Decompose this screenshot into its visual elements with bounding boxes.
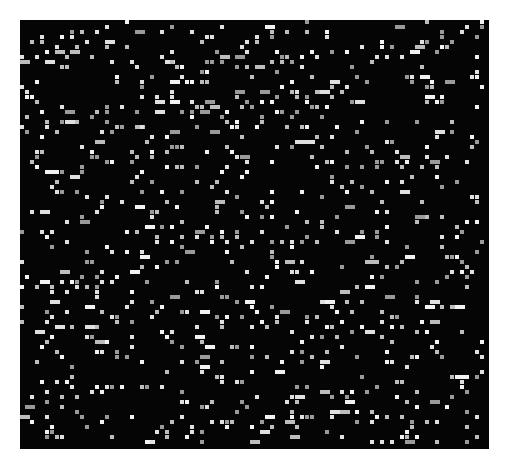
- noise-dot: [250, 285, 254, 289]
- noise-dot: [305, 125, 309, 129]
- noise-dot: [400, 55, 404, 59]
- noise-dot: [115, 275, 119, 279]
- noise-dot: [150, 315, 154, 319]
- noise-dot: [235, 120, 239, 124]
- noise-dot: [410, 420, 414, 424]
- noise-dot: [470, 135, 474, 139]
- noise-dot: [205, 60, 209, 64]
- noise-dot: [215, 205, 219, 209]
- noise-dot: [340, 265, 344, 269]
- noise-dot: [35, 155, 39, 159]
- noise-dot: [370, 150, 374, 154]
- noise-dot: [465, 265, 469, 269]
- noise-dot: [295, 210, 299, 214]
- noise-dot: [240, 135, 244, 139]
- noise-dot: [445, 405, 449, 409]
- noise-dot: [140, 265, 144, 269]
- noise-dot: [470, 75, 474, 79]
- noise-dot: [215, 280, 219, 284]
- noise-dot: [95, 155, 99, 159]
- noise-dot: [245, 170, 249, 174]
- noise-dot: [150, 440, 154, 444]
- noise-dot: [20, 305, 24, 309]
- noise-dot: [480, 85, 484, 89]
- noise-dot: [80, 30, 84, 34]
- noise-dot: [305, 385, 309, 389]
- noise-dot: [270, 100, 274, 104]
- noise-dot: [470, 270, 474, 274]
- noise-dot: [45, 50, 49, 54]
- noise-dot: [160, 30, 164, 34]
- noise-dot: [160, 225, 164, 229]
- noise-dot: [410, 50, 420, 54]
- noise-dot: [250, 370, 254, 374]
- noise-dot: [125, 355, 129, 359]
- noise-dot: [165, 135, 169, 139]
- noise-dot: [200, 70, 204, 74]
- noise-dot: [60, 65, 64, 69]
- noise-dot: [170, 90, 174, 94]
- noise-dot: [195, 360, 199, 364]
- noise-dot: [305, 315, 309, 319]
- noise-dot: [300, 260, 304, 264]
- noise-dot: [75, 120, 79, 124]
- noise-dot: [90, 115, 94, 119]
- noise-dot: [20, 320, 24, 324]
- noise-dot: [330, 85, 334, 89]
- noise-dot: [130, 270, 140, 274]
- noise-dot: [345, 205, 355, 209]
- noise-dot: [380, 335, 384, 339]
- noise-dot: [190, 80, 194, 84]
- noise-dot: [435, 350, 439, 354]
- noise-dot: [385, 240, 389, 244]
- noise-dot: [245, 40, 249, 44]
- noise-dot: [150, 135, 154, 139]
- noise-dot: [350, 310, 354, 314]
- noise-dot: [235, 230, 239, 234]
- noise-dot: [90, 335, 94, 339]
- noise-dot: [355, 420, 359, 424]
- noise-dot: [345, 50, 349, 54]
- noise-dot: [395, 160, 399, 164]
- noise-dot: [235, 300, 239, 304]
- noise-dot: [310, 105, 314, 109]
- noise-dot: [395, 150, 399, 154]
- noise-dot: [220, 420, 224, 424]
- noise-dot: [320, 145, 324, 149]
- noise-dot: [50, 300, 60, 304]
- noise-dot: [465, 220, 469, 224]
- noise-dot: [290, 415, 294, 419]
- noise-dot: [345, 400, 355, 404]
- noise-dot: [320, 360, 330, 364]
- noise-dot: [205, 100, 215, 104]
- noise-dot: [165, 435, 169, 439]
- noise-dot: [100, 310, 104, 314]
- noise-dot: [250, 355, 254, 359]
- noise-dot: [315, 105, 319, 109]
- noise-dot: [65, 55, 69, 59]
- noise-dot: [365, 145, 369, 149]
- noise-dot: [35, 330, 45, 334]
- noise-dot: [240, 245, 244, 249]
- noise-dot: [480, 355, 484, 359]
- noise-dot: [105, 415, 109, 419]
- noise-dot: [340, 410, 350, 414]
- noise-dot: [70, 325, 74, 329]
- noise-dot: [40, 135, 44, 139]
- noise-dot: [280, 360, 284, 364]
- noise-dot: [290, 350, 294, 354]
- noise-dot: [425, 215, 429, 219]
- noise-dot: [65, 110, 75, 114]
- noise-dot: [450, 130, 454, 134]
- noise-dot: [250, 305, 254, 309]
- noise-dot: [415, 295, 419, 299]
- noise-dot: [415, 300, 419, 304]
- noise-dot: [260, 320, 264, 324]
- noise-dot: [320, 220, 324, 224]
- noise-dot: [245, 405, 249, 409]
- noise-dot: [155, 265, 159, 269]
- noise-dot: [410, 175, 414, 179]
- noise-dot: [225, 145, 229, 149]
- noise-dot: [410, 75, 414, 79]
- noise-dot: [290, 60, 294, 64]
